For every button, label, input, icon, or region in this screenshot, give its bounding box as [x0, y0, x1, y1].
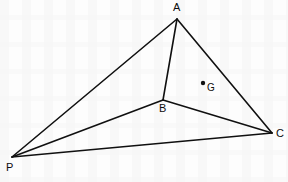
vertex-label-g: G — [207, 82, 215, 93]
figure-drawing-surface — [0, 0, 288, 182]
segment-p-c — [12, 133, 272, 157]
segment-b-c — [163, 100, 272, 133]
segment-a-c — [177, 19, 272, 133]
point-marker-g — [201, 81, 205, 85]
vertex-label-b: B — [159, 103, 166, 114]
vertex-label-p: P — [6, 162, 13, 173]
vertex-label-a: A — [173, 2, 180, 13]
segment-a-b — [163, 19, 177, 100]
geometry-figure: A B C P G — [0, 0, 288, 182]
segment-b-p — [12, 100, 163, 157]
segment-a-p — [12, 19, 177, 157]
vertex-label-c: C — [276, 128, 284, 139]
